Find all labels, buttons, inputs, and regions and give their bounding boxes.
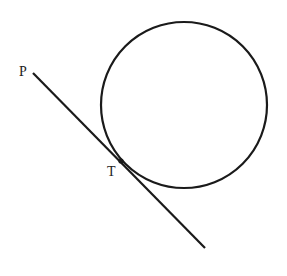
geometry-figure — [0, 0, 287, 276]
circle — [101, 22, 267, 188]
label-p: P — [19, 64, 27, 80]
tangent-point-t — [118, 158, 123, 163]
diagram-canvas: P T — [0, 0, 287, 276]
label-t: T — [107, 164, 116, 180]
